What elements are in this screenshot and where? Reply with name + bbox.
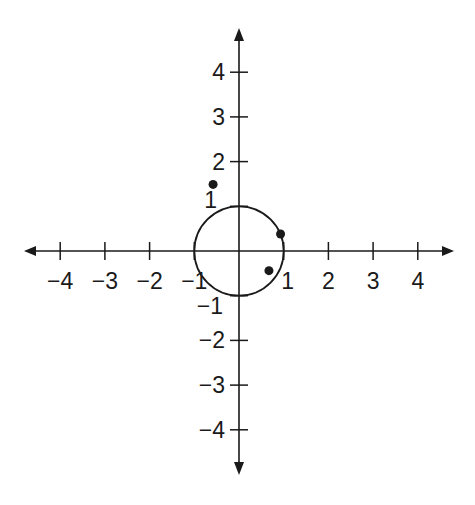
y-tick-label: −1 <box>197 293 223 319</box>
x-tick-label: 4 <box>411 268 424 294</box>
x-tick-label: −4 <box>47 268 73 294</box>
x-tick-label: −1 <box>181 268 207 294</box>
point-c <box>264 266 273 275</box>
coordinate-plane: −4−3−2−11234 4321−1−2−3−4 <box>0 0 475 505</box>
x-tick-label: −2 <box>136 268 162 294</box>
y-tick-label: −4 <box>199 417 225 443</box>
y-axis-up-arrow-icon <box>234 28 244 41</box>
point-a <box>209 180 218 189</box>
y-tick-label: 3 <box>212 104 225 130</box>
y-tick-label: −3 <box>199 372 225 398</box>
point-b <box>276 230 285 239</box>
x-tick-label: 1 <box>281 268 294 294</box>
x-ticks: −4−3−2−11234 <box>47 242 424 294</box>
x-axis-right-arrow-icon <box>442 246 454 256</box>
plotted-points <box>209 180 285 275</box>
y-tick-label: −2 <box>199 327 225 353</box>
y-axis-down-arrow-icon <box>234 462 244 475</box>
y-tick-label: 1 <box>204 187 217 213</box>
x-tick-label: 2 <box>322 268 335 294</box>
x-tick-label: 3 <box>367 268 380 294</box>
y-tick-label: 4 <box>212 59 225 85</box>
x-axis-left-arrow-icon <box>24 246 36 256</box>
x-tick-label: −3 <box>92 268 118 294</box>
y-tick-label: 2 <box>212 149 225 175</box>
